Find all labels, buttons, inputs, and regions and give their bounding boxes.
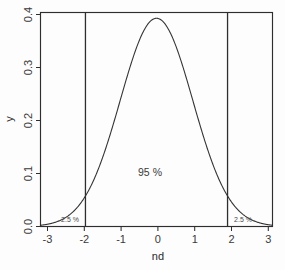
y-axis-title: y — [3, 116, 15, 122]
plot-frame — [41, 13, 273, 227]
y-ticklabel-2: 0.2 — [22, 113, 34, 128]
y-ticklabel-3: 0.3 — [22, 60, 34, 75]
x-axis-title: nd — [152, 250, 164, 262]
x-axis-ticks — [48, 227, 269, 232]
y-ticklabel-4: 0.4 — [22, 7, 34, 22]
right-tail-label: 2.5 % — [234, 216, 252, 223]
x-ticklabel-0: -3 — [43, 233, 53, 245]
normal-distribution-figure: 0.4 0.3 0.2 0.1 0.0 y -3 -2 -1 0 1 2 3 — [0, 0, 285, 270]
y-ticklabel-1: 0.1 — [22, 166, 34, 181]
y-axis-ticks — [36, 15, 41, 227]
center-area-label: 95 % — [138, 166, 162, 178]
x-ticklabel-6: 3 — [265, 233, 271, 245]
x-ticklabel-4: 1 — [192, 233, 198, 245]
y-axis-tick-labels: 0.4 0.3 0.2 0.1 0.0 — [22, 7, 34, 234]
x-ticklabel-3: 0 — [155, 233, 161, 245]
x-ticklabel-5: 2 — [228, 233, 234, 245]
plot-canvas: 0.4 0.3 0.2 0.1 0.0 y -3 -2 -1 0 1 2 3 — [0, 0, 285, 270]
left-tail-label: 2.5 % — [61, 216, 79, 223]
y-ticklabel-0: 0.0 — [22, 219, 34, 234]
normal-density-curve — [41, 18, 273, 225]
x-axis-tick-labels: -3 -2 -1 0 1 2 3 — [43, 233, 272, 245]
x-ticklabel-2: -1 — [116, 233, 126, 245]
x-ticklabel-1: -2 — [79, 233, 89, 245]
